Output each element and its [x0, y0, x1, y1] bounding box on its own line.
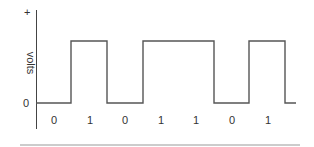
bit-label: 0	[122, 114, 128, 126]
bit-label: 1	[265, 114, 271, 126]
y-axis-label: volts	[25, 52, 37, 75]
bit-label: 0	[229, 114, 235, 126]
y-zero-marker: 0	[23, 97, 29, 109]
waveform	[36, 41, 296, 103]
bit-label: 0	[51, 114, 57, 126]
y-top-marker: +	[24, 6, 30, 18]
bit-label: 1	[158, 114, 164, 126]
bit-label: 1	[87, 114, 93, 126]
signal-diagram: + 0 volts 0 1 0 1 1 0 1	[0, 0, 314, 147]
bit-label: 1	[193, 114, 199, 126]
